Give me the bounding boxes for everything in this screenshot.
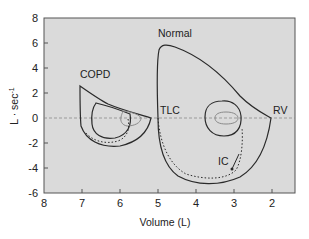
y-tick-label: 6 (32, 37, 38, 49)
x-tick-label: 6 (117, 197, 123, 209)
ic-arrow-head (231, 168, 234, 171)
x-tick-label: 3 (231, 197, 237, 209)
label-ic: IC (218, 155, 229, 167)
label-tlc: TLC (160, 104, 180, 116)
y-tick-label: -4 (28, 162, 38, 174)
label-copd: COPD (80, 68, 111, 80)
y-tick-label: 0 (32, 112, 38, 124)
x-tick-label: 2 (269, 197, 275, 209)
y-tick-label: 8 (32, 12, 38, 24)
y-tick-label: 2 (32, 87, 38, 99)
y-tick-label: 4 (32, 62, 38, 74)
label-rv: RV (273, 104, 287, 116)
x-tick-label: 4 (193, 197, 199, 209)
y-tick-label: -6 (28, 187, 38, 199)
x-tick-label: 7 (79, 197, 85, 209)
x-tick-label: 8 (41, 197, 47, 209)
flow-volume-chart: 8 6 4 2 0 -2 -4 -6 8 7 6 5 4 3 2 Volume … (0, 0, 309, 239)
y-axis-label: L · sec-1 (8, 87, 20, 124)
label-normal: Normal (158, 27, 192, 39)
x-axis-label: Volume (L) (140, 216, 191, 228)
svg-text:L · sec-1: L · sec-1 (8, 87, 20, 124)
y-tick-label: -2 (28, 137, 38, 149)
x-tick-label: 5 (155, 197, 161, 209)
